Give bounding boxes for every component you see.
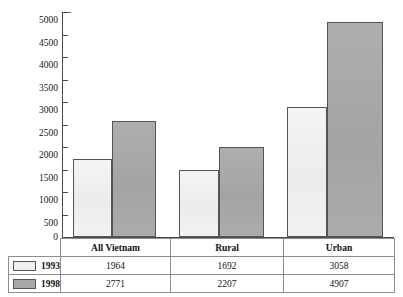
y-tick-label-3500: 3500 (22, 84, 58, 94)
y-tick-mark-5000 (62, 12, 68, 13)
cell-1993-rural: 1692 (171, 257, 284, 275)
table-row: 1998 2771 2207 4907 (9, 275, 395, 293)
y-tick-mark-2500 (62, 125, 68, 126)
y-tick-mark-4500 (62, 35, 68, 36)
column-header-rural: Rural (171, 239, 284, 257)
y-tick-label-1000: 1000 (22, 196, 58, 206)
y-axis-tick-labels: 5000 4500 4000 3500 3000 2500 2000 1500 … (20, 10, 58, 239)
y-tick-mark-500 (62, 215, 68, 216)
cell-1993-urban: 3058 (284, 257, 395, 275)
table-row: 1993 1964 1692 3058 (9, 257, 395, 275)
y-tick-label-2000: 2000 (22, 151, 58, 161)
cell-1998-urban: 4907 (284, 275, 395, 293)
cell-1998-all-vietnam: 2771 (61, 275, 171, 293)
y-tick-mark-2000 (62, 147, 68, 148)
table-header-row: All Vietnam Rural Urban (9, 239, 395, 257)
bar-1993-urban[interactable] (287, 107, 327, 237)
y-tick-mark-3000 (62, 102, 68, 103)
data-table: All Vietnam Rural Urban 1993 1964 1692 3… (8, 238, 394, 290)
column-header-urban: Urban (284, 239, 395, 257)
y-tick-label-2500: 2500 (22, 129, 58, 139)
cell-1998-rural: 2207 (171, 275, 284, 293)
bar-1998-rural[interactable] (219, 147, 264, 237)
column-header-all-vietnam: All Vietnam (61, 239, 171, 257)
legend-entry-1998[interactable]: 1998 (9, 275, 61, 293)
y-tick-mark-1500 (62, 170, 68, 171)
legend-swatch-1993-icon (13, 261, 36, 271)
legend-label-1998: 1998 (41, 279, 60, 289)
y-tick-mark-4000 (62, 57, 68, 58)
y-axis-line (62, 12, 63, 239)
cell-1993-all-vietnam: 1964 (61, 257, 171, 275)
y-tick-label-1500: 1500 (22, 174, 58, 184)
legend-label-1993: 1993 (41, 261, 60, 271)
plot-area (62, 10, 394, 239)
legend-entry-1993[interactable]: 1993 (9, 257, 61, 275)
y-tick-mark-3500 (62, 80, 68, 81)
bar-1998-all-vietnam[interactable] (112, 121, 156, 237)
bar-1993-all-vietnam[interactable] (73, 159, 112, 237)
y-tick-label-3000: 3000 (22, 106, 58, 116)
bar-1993-rural[interactable] (179, 170, 219, 238)
y-tick-label-5000: 5000 (22, 16, 58, 26)
bar-1998-urban[interactable] (327, 22, 383, 237)
y-tick-mark-1000 (62, 192, 68, 193)
bar-chart-figure: 5000 4500 4000 3500 3000 2500 2000 1500 … (0, 0, 403, 297)
legend-swatch-1998-icon (13, 279, 36, 289)
y-tick-label-500: 500 (22, 219, 58, 229)
table-corner-cell (9, 239, 61, 257)
y-tick-label-4000: 4000 (22, 61, 58, 71)
y-tick-label-4500: 4500 (22, 39, 58, 49)
